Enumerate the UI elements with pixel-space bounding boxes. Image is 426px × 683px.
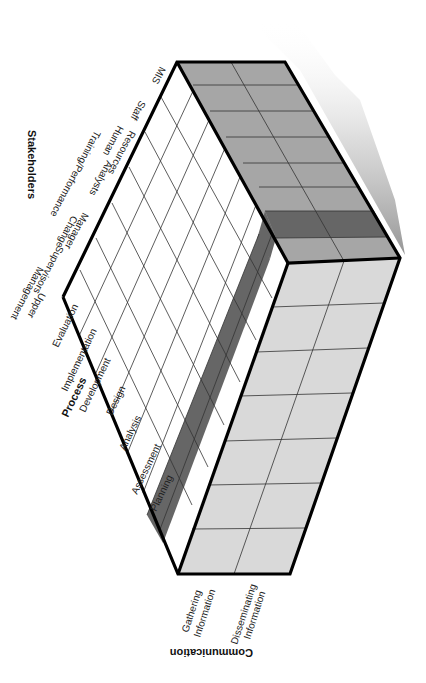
side-highlight-band: [265, 211, 388, 238]
cube-diagram: Stakeholders MIS Staff Human Resources T…: [0, 0, 426, 683]
stakeholders-title: Stakeholders: [26, 130, 38, 199]
stakeholder-staff: Staff: [129, 99, 148, 122]
communication-labels: Gathering Information Disseminating Info…: [170, 582, 268, 659]
stakeholder-tpa-line1: Training/Performance: [48, 129, 103, 219]
communication-title: Communication: [170, 647, 253, 659]
stakeholder-tpa-line2: Analysts: [87, 159, 114, 198]
